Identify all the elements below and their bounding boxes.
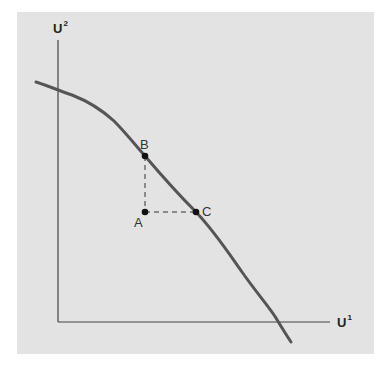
frontier-diagram [0, 0, 374, 366]
y-axis-label-superscript: 2 [63, 19, 67, 28]
point-b-label: B [140, 137, 149, 152]
x-axis-label-superscript: 1 [347, 313, 351, 322]
x-axis-label: U1 [337, 315, 352, 330]
point-c [193, 209, 200, 216]
point-a-label: A [134, 215, 143, 230]
x-axis-label-text: U [337, 315, 346, 330]
y-axis-label-text: U [53, 21, 62, 36]
point-b [142, 153, 149, 160]
point-c-label: C [202, 204, 211, 219]
y-axis-label: U2 [53, 21, 68, 36]
